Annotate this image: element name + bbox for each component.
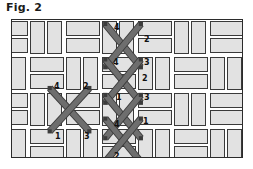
brick-horizontal [11,38,28,53]
brick-vertical [210,57,225,90]
brick-horizontal [66,110,100,125]
brick-horizontal [138,38,172,53]
brick-vertical [119,93,134,126]
brick-horizontal [210,93,243,108]
brick-vertical [138,57,153,90]
brick-vertical [102,93,117,126]
brick-vertical [30,93,45,126]
brick-horizontal [138,93,172,108]
brick-vertical [191,93,206,126]
brick-horizontal [174,129,208,144]
brick-vertical [119,21,134,54]
brick-vertical [11,129,26,158]
brick-horizontal [102,129,136,144]
brick-horizontal [102,74,136,89]
brick-horizontal [30,57,64,72]
brick-vertical [11,57,26,90]
brick-vertical [66,129,81,158]
brick-horizontal [102,57,136,72]
figure-caption: Fig. 2 [6,1,42,15]
brick-horizontal [30,146,64,158]
brick-horizontal [11,93,28,108]
brick-vertical [155,129,170,158]
brick-vertical [66,57,81,90]
brick-vertical [227,57,242,90]
brick-vertical [174,21,189,54]
brick-horizontal [174,57,208,72]
brick-horizontal [210,110,243,125]
brick-horizontal [174,74,208,89]
brick-vertical [47,21,62,54]
brick-horizontal [30,129,64,144]
brick-vertical [83,57,98,90]
brick-horizontal [210,38,243,53]
brick-horizontal [66,21,100,36]
brick-horizontal [138,21,172,36]
brick-horizontal [11,110,28,125]
diagram-frame: 42432134124213 [11,19,243,158]
brick-vertical [30,21,45,54]
brick-horizontal [174,146,208,158]
brick-vertical [102,21,117,54]
brick-horizontal [138,110,172,125]
basketweave-brick-layer [12,20,242,157]
brick-horizontal [66,93,100,108]
figure-root: Fig. 2 42432134124213 [0,0,253,169]
brick-horizontal [66,38,100,53]
brick-horizontal [30,74,64,89]
brick-vertical [138,129,153,158]
brick-vertical [83,129,98,158]
brick-vertical [47,93,62,126]
brick-vertical [227,129,242,158]
brick-vertical [155,57,170,90]
brick-horizontal [210,21,243,36]
brick-vertical [210,129,225,158]
brick-horizontal [102,146,136,158]
brick-vertical [174,93,189,126]
brick-vertical [191,21,206,54]
brick-horizontal [11,21,28,36]
